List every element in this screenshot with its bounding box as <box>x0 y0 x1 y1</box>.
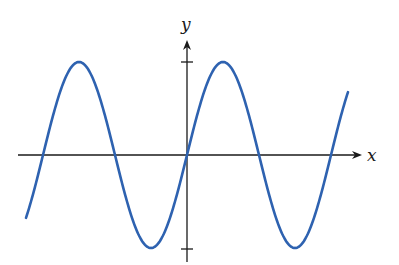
sine-graph: y x <box>0 0 399 265</box>
x-axis <box>18 151 362 159</box>
x-axis-label: x <box>367 145 377 165</box>
y-axis-label: y <box>180 14 191 34</box>
